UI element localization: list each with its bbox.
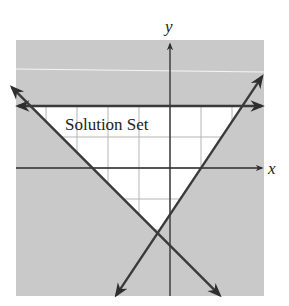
solution-set-label: Solution Set <box>65 115 149 134</box>
x-axis-label: x <box>267 159 276 178</box>
inequality-graph: y x Solution Set <box>0 0 289 306</box>
y-axis-label: y <box>163 17 173 36</box>
